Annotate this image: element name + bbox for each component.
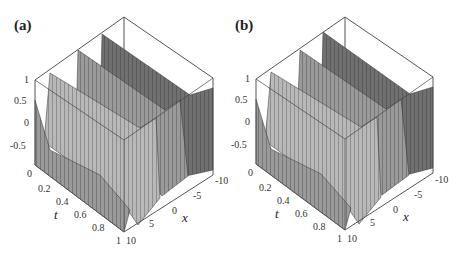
z-tick: 0: [245, 116, 250, 127]
x-tick: 0: [393, 204, 398, 215]
t-tick: 0.2: [259, 182, 272, 193]
t-tick: 1: [116, 235, 121, 246]
t-tick: 1: [337, 233, 342, 244]
t-tick: 0: [248, 167, 253, 178]
x-tick: 0: [172, 205, 177, 216]
z-tick: 0.5: [14, 95, 27, 106]
panel-label: (a): [14, 17, 32, 34]
x-axis-label: x: [182, 210, 188, 226]
z-tick: -0.5: [231, 139, 247, 150]
x-tick: 10: [126, 235, 136, 246]
surface-plot-a: [0, 0, 230, 257]
z-tick: 0.5: [235, 94, 248, 105]
z-tick: 1: [245, 73, 250, 84]
x-tick: 5: [370, 217, 375, 228]
t-tick: 0.4: [277, 195, 290, 206]
x-tick: -5: [193, 190, 201, 201]
t-axis-label: t: [275, 206, 279, 222]
x-tick: -10: [435, 174, 448, 185]
x-axis-label: x: [403, 209, 409, 225]
x-tick: -10: [215, 175, 228, 186]
t-tick: 0.8: [313, 221, 326, 232]
x-tick: 10: [347, 233, 357, 244]
t-tick: 0.2: [38, 183, 51, 194]
t-axis-label: t: [54, 207, 58, 223]
x-tick: -5: [414, 189, 422, 200]
z-tick: 1: [24, 74, 29, 85]
t-tick: 0: [27, 168, 32, 179]
t-tick: 0.6: [295, 208, 308, 219]
panel-b: (b) 1 0.5 0 -0.5 0 0.2 0.4 0.6 0.8 1 -10…: [230, 0, 460, 257]
t-tick: 0.8: [92, 222, 105, 233]
panel-label: (b): [235, 17, 253, 34]
t-tick: 0.4: [56, 196, 69, 207]
z-tick: 0: [24, 117, 29, 128]
surface-plot-b: [230, 0, 460, 257]
t-tick: 0.6: [74, 209, 87, 220]
z-tick: -0.5: [10, 140, 26, 151]
panel-a: (a) 1 0.5 0 -0.5 0 0.2 0.4 0.6 0.8 1 -10…: [0, 0, 230, 257]
x-tick: 5: [149, 218, 154, 229]
